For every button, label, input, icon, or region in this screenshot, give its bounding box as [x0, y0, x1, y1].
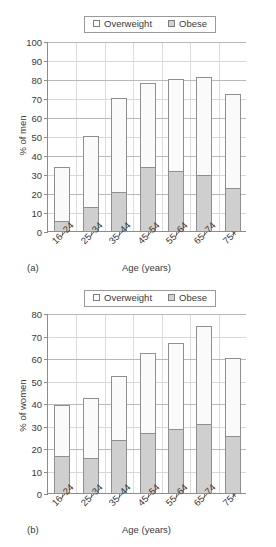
y-axis-tick: [44, 427, 48, 428]
plot-area-women: [47, 314, 246, 494]
bar-segment-overweight[interactable]: [225, 358, 241, 437]
legend-label-obese: Obese: [179, 293, 207, 303]
gridline: [48, 61, 246, 62]
bar-segment-overweight[interactable]: [111, 376, 127, 441]
bar-segment-overweight[interactable]: [225, 94, 241, 189]
legend-item-obese: Obese: [168, 19, 207, 29]
legend-label-obese: Obese: [179, 19, 207, 29]
bar-segment-obese[interactable]: [225, 188, 241, 232]
y-axis-tick-label: 100: [26, 38, 42, 48]
y-axis-tick-label: 20: [31, 190, 42, 200]
bar-stack[interactable]: [225, 358, 241, 493]
bar-stack[interactable]: [83, 136, 99, 231]
bar-stack[interactable]: [196, 326, 212, 493]
gridline: [48, 80, 246, 81]
x-axis-title-women: Age (years): [47, 524, 246, 535]
y-axis-tick: [44, 99, 48, 100]
y-axis-tick-label: 10: [31, 209, 42, 219]
y-axis-tick: [44, 137, 48, 138]
bar-stack[interactable]: [225, 94, 241, 231]
chart-panel-men: Overweight Obese % of men (a) Age (years…: [0, 0, 276, 278]
legend-swatch-overweight-icon: [93, 20, 100, 27]
y-axis-tick: [44, 404, 48, 405]
bar-segment-overweight[interactable]: [54, 167, 70, 222]
x-axis-title-men: Age (years): [47, 262, 246, 273]
y-axis-tick: [44, 494, 48, 495]
bar-segment-overweight[interactable]: [140, 353, 156, 434]
y-axis-tick-label: 20: [31, 445, 42, 455]
bar-stack[interactable]: [83, 398, 99, 493]
legend-item-obese: Obese: [168, 293, 207, 303]
legend-label-overweight: Overweight: [104, 19, 152, 29]
y-axis-tick: [44, 175, 48, 176]
y-axis-tick: [44, 80, 48, 81]
y-axis-tick: [44, 449, 48, 450]
y-axis-tick: [44, 61, 48, 62]
panel-letter-a: (a): [27, 262, 39, 273]
y-axis-tick-label: 40: [31, 152, 42, 162]
y-axis-tick-label: 50: [31, 378, 42, 388]
legend-label-overweight: Overweight: [104, 293, 152, 303]
bar-stack[interactable]: [196, 77, 212, 231]
y-axis-tick-label: 10: [31, 468, 42, 478]
y-axis-tick-label: 90: [31, 57, 42, 67]
y-axis-tick-label: 0: [37, 490, 42, 500]
y-axis-tick-label: 0: [37, 228, 42, 238]
plot-area-men: [47, 42, 246, 232]
legend-swatch-obese-icon: [168, 294, 175, 301]
legend-swatch-overweight-icon: [93, 294, 100, 301]
y-axis-tick-label: 70: [31, 95, 42, 105]
y-axis-title-men: % of men: [17, 106, 28, 166]
bar-stack[interactable]: [140, 83, 156, 231]
y-axis-tick: [44, 472, 48, 473]
gridline: [48, 42, 246, 43]
bar-stack[interactable]: [168, 79, 184, 231]
y-axis-tick: [44, 232, 48, 233]
bar-segment-overweight[interactable]: [83, 136, 99, 208]
y-axis-tick-label: 70: [31, 333, 42, 343]
bar-segment-overweight[interactable]: [168, 343, 184, 430]
gridline: [48, 337, 246, 338]
y-axis-tick: [44, 156, 48, 157]
bar-segment-overweight[interactable]: [54, 405, 70, 457]
y-axis-tick-label: 80: [31, 76, 42, 86]
bar-stack[interactable]: [140, 353, 156, 493]
y-axis-tick: [44, 337, 48, 338]
bar-stack[interactable]: [168, 343, 184, 493]
y-axis-tick: [44, 382, 48, 383]
bar-segment-overweight[interactable]: [83, 398, 99, 459]
panel-letter-b: (b): [27, 524, 39, 535]
y-axis-tick: [44, 359, 48, 360]
y-axis-tick: [44, 42, 48, 43]
legend-item-overweight: Overweight: [93, 293, 152, 303]
legend-women: Overweight Obese: [84, 290, 216, 307]
bar-segment-overweight[interactable]: [196, 326, 212, 425]
legend-swatch-obese-icon: [168, 20, 175, 27]
bar-stack[interactable]: [111, 376, 127, 493]
chart-panel-women: Overweight Obese % of women (b) Age (yea…: [0, 278, 276, 547]
y-axis-tick-label: 50: [31, 133, 42, 143]
bar-stack[interactable]: [111, 98, 127, 231]
bar-segment-overweight[interactable]: [140, 83, 156, 169]
y-axis-title-women: % of women: [17, 373, 28, 439]
y-axis-tick-label: 80: [31, 310, 42, 320]
y-axis-tick: [44, 314, 48, 315]
y-axis-tick-label: 60: [31, 114, 42, 124]
bar-segment-overweight[interactable]: [168, 79, 184, 172]
y-axis-tick: [44, 194, 48, 195]
bar-stack[interactable]: [54, 405, 70, 493]
bar-segment-obese[interactable]: [225, 436, 241, 495]
y-axis-tick: [44, 213, 48, 214]
bar-segment-overweight[interactable]: [111, 98, 127, 193]
y-axis-tick-label: 30: [31, 423, 42, 433]
y-axis-tick: [44, 118, 48, 119]
legend-item-overweight: Overweight: [93, 19, 152, 29]
gridline: [48, 314, 246, 315]
y-axis-tick-label: 60: [31, 355, 42, 365]
bar-segment-overweight[interactable]: [196, 77, 212, 176]
legend-men: Overweight Obese: [84, 16, 216, 33]
y-axis-tick-label: 40: [31, 400, 42, 410]
y-axis-tick-label: 30: [31, 171, 42, 181]
